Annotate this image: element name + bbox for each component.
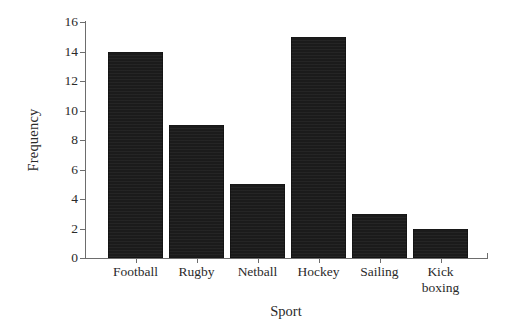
x-axis-tick-mark bbox=[197, 258, 198, 263]
y-axis-title: Frequency bbox=[22, 22, 44, 258]
x-axis-tick-label: Kickboxing bbox=[407, 264, 474, 295]
x-axis-tick-mark bbox=[258, 258, 259, 263]
bar-chart: Frequency 0246810121416 Sport FootballRu… bbox=[0, 0, 518, 331]
x-axis-tick-mark bbox=[136, 258, 137, 263]
y-axis-tick-mark bbox=[80, 81, 85, 82]
y-axis-tick-labels: 0246810121416 bbox=[56, 0, 78, 331]
x-axis-end-tick bbox=[487, 253, 488, 259]
y-axis-tick-mark bbox=[80, 111, 85, 112]
x-axis-tick-mark bbox=[380, 258, 381, 263]
y-axis-tick-label: 8 bbox=[56, 132, 78, 148]
x-axis-tick-label-line: Kick bbox=[407, 264, 474, 280]
plot-area bbox=[85, 22, 487, 258]
x-axis-tick-mark bbox=[319, 258, 320, 263]
x-axis-line bbox=[85, 258, 488, 259]
y-axis-tick-mark bbox=[80, 52, 85, 53]
y-axis-tick-label: 14 bbox=[56, 44, 78, 60]
y-axis-tick-mark bbox=[80, 229, 85, 230]
bar bbox=[291, 37, 346, 258]
bar bbox=[169, 125, 224, 258]
x-axis-tick-label: Sailing bbox=[346, 264, 413, 280]
x-axis-tick-label-line: Sailing bbox=[346, 264, 413, 280]
x-axis-tick-mark bbox=[441, 258, 442, 263]
bar bbox=[413, 229, 468, 259]
x-axis-tick-label-line: Football bbox=[102, 264, 169, 280]
x-axis-tick-label: Football bbox=[102, 264, 169, 280]
y-axis-tick-mark bbox=[80, 199, 85, 200]
y-axis-tick-mark bbox=[80, 140, 85, 141]
y-axis-tick-mark bbox=[80, 22, 85, 23]
y-axis-tick-mark bbox=[80, 258, 85, 259]
x-axis-tick-label-line: Hockey bbox=[285, 264, 352, 280]
y-axis-tick-label: 12 bbox=[56, 73, 78, 89]
y-axis-tick-label: 0 bbox=[56, 250, 78, 266]
bar bbox=[108, 52, 163, 259]
x-axis-tick-label: Rugby bbox=[163, 264, 230, 280]
x-axis-tick-label: Hockey bbox=[285, 264, 352, 280]
x-axis-tick-label-line: Rugby bbox=[163, 264, 230, 280]
y-axis-tick-label: 4 bbox=[56, 191, 78, 207]
y-axis-tick-label: 6 bbox=[56, 162, 78, 178]
x-axis-tick-label: Netball bbox=[224, 264, 291, 280]
y-axis-tick-label: 16 bbox=[56, 14, 78, 30]
bar bbox=[230, 184, 285, 258]
y-axis-tick-label: 2 bbox=[56, 221, 78, 237]
x-axis-tick-label-line: Netball bbox=[224, 264, 291, 280]
bar bbox=[352, 214, 407, 258]
y-axis-tick-mark bbox=[80, 170, 85, 171]
y-axis-tick-label: 10 bbox=[56, 103, 78, 119]
x-axis-title: Sport bbox=[85, 303, 487, 320]
x-axis-tick-label-line: boxing bbox=[407, 280, 474, 296]
